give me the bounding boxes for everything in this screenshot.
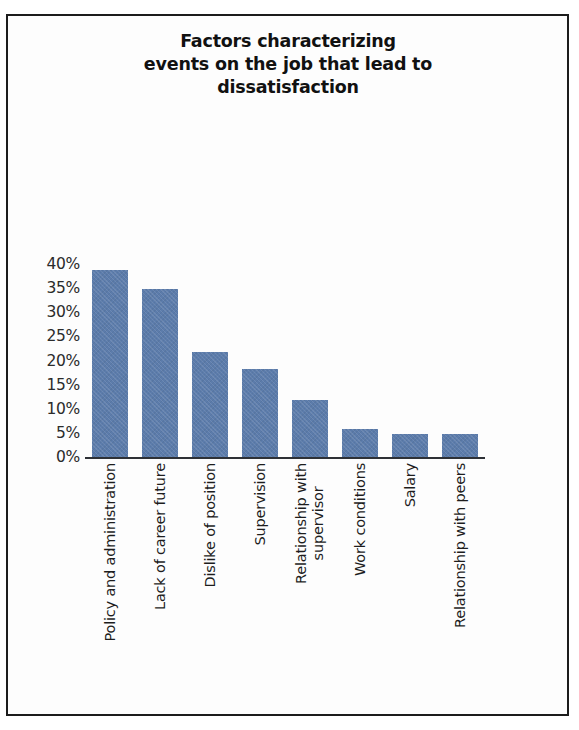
bar: [142, 289, 178, 458]
bar: [92, 270, 128, 458]
x-axis-category-label: Lack of career future: [142, 463, 178, 703]
y-axis-tick-label: 5%: [22, 426, 80, 442]
y-axis-tick-labels: 40%35%30%25%20%15%10%5%0%: [20, 258, 80, 464]
x-axis-category-label: Work conditions: [342, 463, 378, 703]
y-axis-tick-label: 30%: [22, 305, 80, 321]
x-axis-category-label-line: Salary: [402, 463, 418, 507]
y-axis-tick-label: 40%: [22, 257, 80, 273]
x-axis-category-label-text: Salary: [402, 463, 419, 507]
x-axis-category-label-line: supervisor: [310, 463, 327, 584]
x-axis-category-label-line: Relationship with: [293, 463, 309, 584]
x-axis-category-label-line: Policy and administration: [102, 463, 118, 642]
x-axis-category-label-line: Supervision: [252, 463, 268, 546]
x-axis-category-label: Relationship with peers: [442, 463, 478, 703]
x-axis-category-label: Supervision: [242, 463, 278, 703]
x-axis-category-label-line: Work conditions: [352, 463, 368, 576]
x-axis-category-label-text: Policy and administration: [102, 463, 119, 642]
x-axis-category-label-text: Lack of career future: [152, 463, 169, 610]
y-axis-tick-label: 15%: [22, 378, 80, 394]
bar: [392, 434, 428, 458]
y-axis-tick-label: 35%: [22, 281, 80, 297]
bar: [192, 352, 228, 458]
x-axis-category-label: Dislike of position: [192, 463, 228, 703]
x-axis-category-label: Relationship withsupervisor: [292, 463, 328, 703]
x-axis-category-label-text: Relationship with peers: [452, 463, 469, 628]
chart-figure: Factors characterizing events on the job…: [0, 0, 579, 730]
y-axis-tick-label: 20%: [22, 354, 80, 370]
x-axis-category-label-line: Dislike of position: [202, 463, 218, 587]
x-axis-category-label-text: Work conditions: [352, 463, 369, 576]
x-axis-category-label-line: Relationship with peers: [452, 463, 468, 628]
chart-title-line-3: dissatisfaction: [40, 76, 536, 99]
chart-title-line-1: Factors characterizing: [40, 30, 536, 53]
bar: [442, 434, 478, 458]
y-axis-tick-label: 10%: [22, 402, 80, 418]
bar: [342, 429, 378, 458]
x-axis-category-label-line: Lack of career future: [152, 463, 168, 610]
y-axis-tick-label: 0%: [22, 450, 80, 466]
y-axis-tick-label: 25%: [22, 329, 80, 345]
x-axis-line: [85, 457, 485, 459]
chart-title: Factors characterizing events on the job…: [40, 30, 536, 99]
plot-area: [85, 265, 485, 458]
chart-title-line-2: events on the job that lead to: [40, 53, 536, 76]
x-axis-category-label-text: Dislike of position: [202, 463, 219, 587]
bar: [292, 400, 328, 458]
x-axis-category-label: Salary: [392, 463, 428, 703]
bar: [242, 369, 278, 458]
x-axis-category-label-text: Relationship withsupervisor: [293, 463, 327, 584]
x-axis-category-label: Policy and administration: [92, 463, 128, 703]
x-axis-category-label-text: Supervision: [252, 463, 269, 546]
x-axis-category-labels: Policy and administrationLack of career …: [85, 463, 485, 708]
